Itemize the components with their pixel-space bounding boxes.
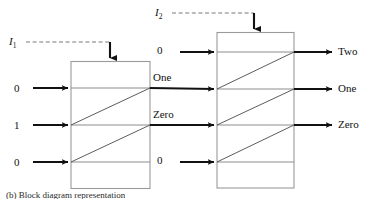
block-1-diagonal-1 [71,88,150,125]
figure-caption: (b) Block diagram representation [6,190,125,199]
block-2-group [217,33,294,189]
input-label-left-1: 1 [14,120,20,131]
block-2-diagonal-3 [217,125,294,162]
signal-label-zero-mid: Zero [153,109,174,120]
output-label-two: Two [338,46,357,57]
middle-arrow-one [150,88,214,89]
input-label-left-2: 0 [14,157,20,168]
control-label-i1: I1 [9,36,16,51]
input-label-mid-top: 0 [157,45,163,56]
output-label-one: One [338,83,356,94]
diagram-canvas [0,0,376,199]
output-label-zero: Zero [338,119,359,130]
input-label-left-0: 0 [14,83,20,94]
block-2-diagonal-1 [217,52,294,89]
input-label-mid-bottom: 0 [157,155,163,166]
block-1-diagonal-2 [71,125,150,162]
block-2-rect [217,33,294,189]
block-2-diagonal-2 [217,89,294,125]
block-diagram-figure: I1 I2 0 1 0 0 One Zero 0 Two One Zero (b… [0,0,376,199]
block-1-group [71,62,150,189]
signal-label-one-mid: One [153,72,171,83]
control-label-i2: I2 [155,7,162,22]
